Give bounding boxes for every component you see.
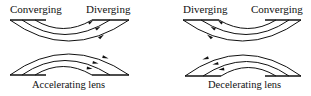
top-arc-middle <box>201 20 289 35</box>
top-arc-inner <box>219 20 276 29</box>
arrow-icon <box>219 68 225 71</box>
bottom-arc-outer <box>10 54 129 75</box>
top-left-label: Diverging <box>183 4 227 15</box>
bottom-arc-middle <box>22 61 110 76</box>
top-arc-outer <box>10 20 129 41</box>
arrow-icon <box>212 62 218 65</box>
top-arc-middle <box>22 20 110 35</box>
bottom-arc-inner <box>35 67 92 76</box>
top-arc-inner <box>35 20 92 29</box>
arrow-icon <box>87 67 93 70</box>
accelerating-lens-diagram: Converging Diverging Accelerating lens <box>0 0 155 96</box>
bottom-arc-inner <box>221 68 276 77</box>
arrow-icon <box>92 61 98 64</box>
arrow-icon <box>102 55 108 58</box>
arrow-icon <box>202 56 208 59</box>
top-right-label: Converging <box>251 4 303 15</box>
top-left-label: Converging <box>10 4 62 15</box>
top-right-label: Diverging <box>86 4 130 15</box>
diagram-caption: Accelerating lens <box>32 79 105 90</box>
diagram-caption: Decelerating lens <box>208 79 281 90</box>
decelerating-lens-diagram: Diverging Converging Decelerating lens <box>156 0 311 96</box>
